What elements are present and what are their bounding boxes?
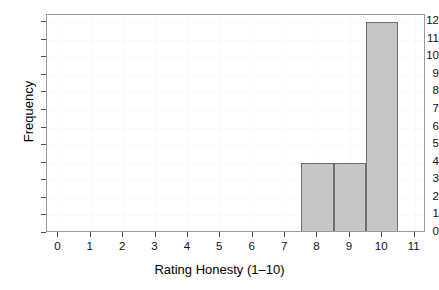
x-axis-tick <box>90 232 91 237</box>
y-axis-tick-label: 1 <box>402 208 439 220</box>
y-axis-tick <box>41 91 46 92</box>
gridline-vertical <box>58 15 59 231</box>
gridline-vertical <box>220 15 221 231</box>
y-axis-tick <box>41 109 46 110</box>
y-axis-tick-label: 2 <box>402 191 439 203</box>
x-axis-tick <box>381 232 382 237</box>
x-axis-title: Rating Honesty (1–10) <box>0 262 439 277</box>
y-axis-tick <box>41 144 46 145</box>
x-axis-tick <box>284 232 285 237</box>
y-axis-tick <box>41 214 46 215</box>
cropped-chart-title <box>60 0 380 3</box>
y-axis-tick-label: 5 <box>402 138 439 150</box>
y-axis-tick <box>41 197 46 198</box>
x-axis-tick <box>414 232 415 237</box>
x-axis-tick <box>155 232 156 237</box>
y-axis-tick <box>41 232 46 233</box>
x-axis-tick <box>252 232 253 237</box>
x-axis-tick <box>57 232 58 237</box>
y-axis-tick <box>41 162 46 163</box>
y-axis-tick-label: 3 <box>402 173 439 185</box>
gridline-vertical <box>285 15 286 231</box>
x-axis-tick <box>349 232 350 237</box>
gridline-vertical <box>156 15 157 231</box>
y-axis-tick-label: 12 <box>402 15 439 27</box>
y-axis-tick-label: 4 <box>402 156 439 168</box>
y-axis-tick-label: 0 <box>402 226 439 238</box>
x-axis-tick <box>187 232 188 237</box>
gridline-vertical <box>253 15 254 231</box>
plot-panel <box>46 14 425 232</box>
y-axis-tick-label: 9 <box>402 68 439 80</box>
histogram-bar <box>366 22 398 232</box>
gridline-vertical <box>123 15 124 231</box>
x-axis-tick <box>316 232 317 237</box>
histogram-chart: 012345678910111201234567891011 Rating Ho… <box>0 0 439 290</box>
y-axis-tick <box>41 179 46 180</box>
histogram-bar <box>334 163 366 232</box>
x-axis-tick-label: 11 <box>394 241 434 253</box>
y-axis-tick-label: 8 <box>402 85 439 97</box>
y-axis-tick <box>41 127 46 128</box>
y-axis-tick <box>41 21 46 22</box>
y-axis-title: Frequency <box>21 32 36 192</box>
y-axis-tick-label: 6 <box>402 121 439 133</box>
y-axis-tick <box>41 39 46 40</box>
y-axis-tick-label: 7 <box>402 103 439 115</box>
gridline-vertical <box>91 15 92 231</box>
y-axis-tick-label: 10 <box>402 50 439 62</box>
y-axis-tick <box>41 56 46 57</box>
x-axis-tick <box>219 232 220 237</box>
gridline-vertical <box>188 15 189 231</box>
y-axis-tick-label: 11 <box>402 33 439 45</box>
histogram-bar <box>301 163 333 232</box>
y-axis-tick <box>41 74 46 75</box>
x-axis-tick <box>122 232 123 237</box>
